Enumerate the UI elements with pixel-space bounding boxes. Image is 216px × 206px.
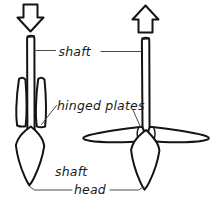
label-shaft-head-line1: shaft (55, 164, 88, 179)
open-hinged-plate-right (148, 127, 209, 142)
down-arrow-icon (18, 5, 44, 32)
open-shaft (142, 38, 150, 138)
closed-hinged-plate-left (16, 78, 26, 127)
leader-shaft-head-right (110, 187, 144, 191)
shaft-hinged-plates-diagram: Shaft with hinged plates — closed and de… (0, 0, 216, 206)
label-shaft-head-line2: head (74, 182, 106, 197)
open-shaft-head (131, 130, 159, 190)
diagram-labels: shaft hinged plates shaft head (55, 44, 145, 197)
closed-shaft-head (16, 127, 44, 186)
up-arrow-icon (133, 6, 159, 33)
closed-assembly (16, 5, 46, 186)
closed-shaft (27, 36, 35, 132)
label-hinged-plates: hinged plates (57, 98, 145, 113)
leader-shaft-head-left (30, 187, 73, 191)
diagram-canvas: Shaft with hinged plates — closed and de… (0, 0, 216, 206)
label-shaft: shaft (59, 44, 92, 59)
closed-hinged-plate-right (36, 78, 46, 128)
